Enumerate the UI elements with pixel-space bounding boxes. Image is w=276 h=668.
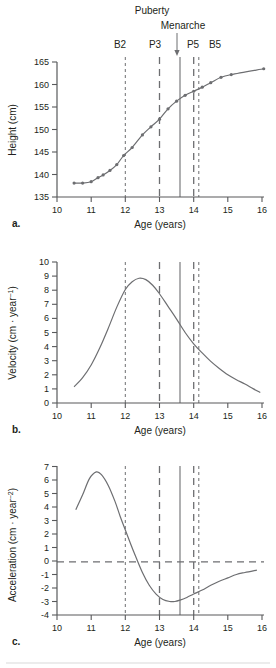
figure-svg: Puberty Menarche B2 P3 P5 B5 — [0, 0, 276, 668]
stage-p5-label: P5 — [187, 39, 200, 50]
xtick-b-12: 12 — [120, 411, 130, 421]
panel-b-ylabel: Velocity (cm · year−1) — [7, 286, 18, 380]
puberty-label: Puberty — [135, 5, 169, 16]
xtick-b-13: 13 — [154, 411, 164, 421]
data-point — [262, 67, 265, 70]
data-point — [158, 118, 161, 121]
xtick-a-11: 11 — [87, 205, 96, 215]
data-point — [96, 176, 99, 179]
panel-c-ylabel-superscript: −2 — [7, 491, 14, 499]
data-point — [108, 169, 111, 172]
panel-b-xlabel: Age (years) — [134, 425, 186, 436]
data-point — [184, 94, 187, 97]
xtick-c-16: 16 — [257, 623, 267, 633]
ytick-b-3: 3 — [44, 356, 49, 366]
ytick-b-0: 0 — [44, 398, 49, 408]
xtick-a-15: 15 — [223, 205, 233, 215]
panel-a-ylabel: Height (cm) — [7, 104, 18, 156]
data-point — [149, 125, 152, 128]
panel-c-ylabel: Acceleration (cm · year−2) — [7, 488, 18, 602]
data-point — [122, 154, 125, 157]
ytick-c-0: 0 — [44, 556, 49, 566]
data-point — [166, 107, 169, 110]
ytick-c-6: 6 — [44, 475, 49, 485]
xtick-b-15: 15 — [223, 411, 233, 421]
ytick-c-3: 3 — [44, 516, 49, 526]
ytick-c-5: 5 — [44, 489, 49, 499]
data-point — [115, 163, 118, 166]
ytick-c-m3: -3 — [41, 597, 49, 607]
data-point — [230, 73, 233, 76]
ytick-b-4: 4 — [44, 342, 49, 352]
panel-b-ylabel-main: Velocity (cm · year — [7, 297, 18, 380]
ytick-c-2: 2 — [44, 529, 49, 539]
panel-b-ylabel-tail: ) — [7, 286, 18, 289]
xtick-b-16: 16 — [257, 411, 267, 421]
xtick-c-10: 10 — [52, 623, 62, 633]
xtick-a-16: 16 — [257, 205, 267, 215]
ytick-c-m4: -4 — [41, 610, 49, 620]
xtick-a-13: 13 — [154, 205, 164, 215]
xtick-a-12: 12 — [120, 205, 130, 215]
xtick-a-14: 14 — [189, 205, 199, 215]
ytick-b-1: 1 — [44, 384, 49, 394]
ytick-a-145: 145 — [34, 147, 49, 157]
figure-background — [0, 0, 276, 668]
ytick-b-5: 5 — [44, 328, 49, 338]
ytick-a-155: 155 — [34, 102, 49, 112]
ytick-c-m1: -1 — [41, 570, 49, 580]
xtick-b-14: 14 — [189, 411, 199, 421]
stage-p3-label: P3 — [149, 39, 162, 50]
data-point — [201, 86, 204, 89]
panel-c-ylabel-tail: ) — [7, 488, 18, 491]
xtick-a-10: 10 — [52, 205, 62, 215]
data-point — [72, 181, 75, 184]
data-point — [141, 133, 144, 136]
xtick-c-13: 13 — [154, 623, 164, 633]
ytick-a-150: 150 — [34, 125, 49, 135]
ytick-a-165: 165 — [34, 57, 49, 67]
panel-b-ylabel-superscript: −1 — [7, 289, 14, 297]
ytick-c-1: 1 — [44, 543, 49, 553]
ytick-c-m2: -2 — [41, 583, 49, 593]
ytick-b-9: 9 — [44, 271, 49, 281]
data-point — [219, 76, 222, 79]
panel-c-letter: c. — [12, 636, 21, 647]
data-point — [175, 100, 178, 103]
xtick-c-12: 12 — [120, 623, 130, 633]
xtick-c-14: 14 — [189, 623, 199, 633]
data-point — [192, 90, 195, 93]
panel-c-ylabel-main: Acceleration (cm · year — [7, 499, 18, 602]
data-point — [209, 81, 212, 84]
ytick-a-140: 140 — [34, 170, 49, 180]
data-point — [102, 173, 105, 176]
panel-a-letter: a. — [12, 218, 21, 229]
ytick-a-160: 160 — [34, 80, 49, 90]
ytick-c-7: 7 — [44, 462, 49, 472]
ytick-b-10: 10 — [39, 257, 49, 267]
ytick-a-135: 135 — [34, 192, 49, 202]
xtick-b-10: 10 — [52, 411, 62, 421]
panel-b-letter: b. — [12, 424, 21, 435]
stage-b2-label: B2 — [114, 39, 127, 50]
stage-b5-label: B5 — [209, 39, 222, 50]
xtick-b-11: 11 — [87, 411, 96, 421]
growth-curves-figure: Puberty Menarche B2 P3 P5 B5 — [0, 0, 276, 668]
data-point — [81, 181, 84, 184]
data-point — [131, 146, 134, 149]
xtick-c-11: 11 — [87, 623, 96, 633]
ytick-b-8: 8 — [44, 285, 49, 295]
ytick-b-7: 7 — [44, 299, 49, 309]
ytick-c-4: 4 — [44, 502, 49, 512]
ytick-b-6: 6 — [44, 313, 49, 323]
menarche-label: Menarche — [161, 20, 206, 31]
xtick-c-15: 15 — [223, 623, 233, 633]
data-point — [90, 180, 93, 183]
panel-a-xlabel: Age (years) — [134, 219, 186, 230]
panel-c-xlabel: Age (years) — [134, 637, 186, 648]
ytick-b-2: 2 — [44, 370, 49, 380]
